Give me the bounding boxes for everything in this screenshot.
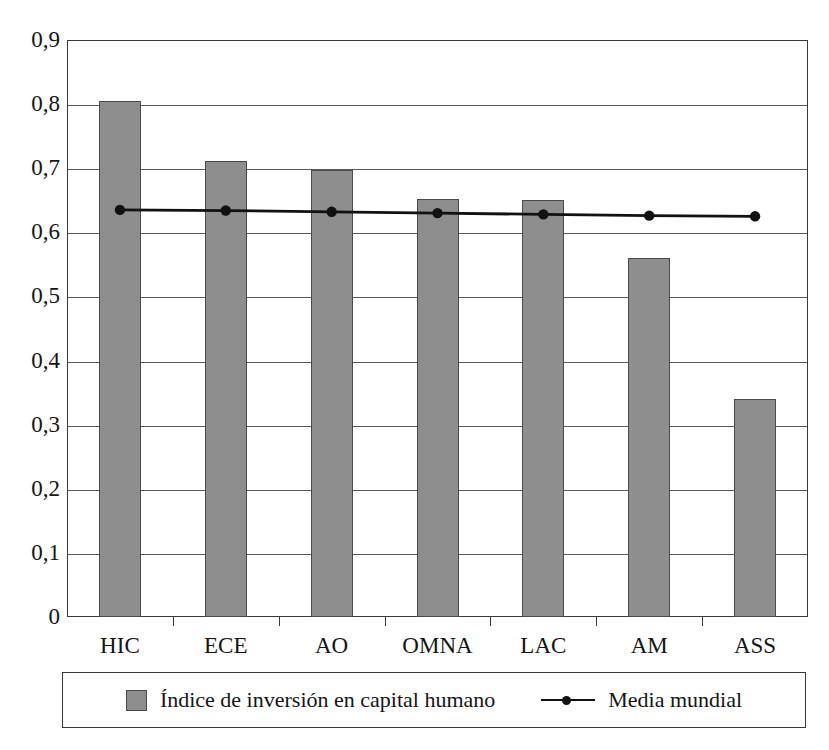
legend-entry-bar: Índice de inversión en capital humano xyxy=(126,689,495,711)
mean-line-marker xyxy=(326,207,336,217)
mean-line-marker xyxy=(750,211,760,221)
x-axis-label-omna: OMNA xyxy=(385,634,491,657)
legend: Índice de inversión en capital humano Me… xyxy=(62,672,806,728)
legend-entry-line: Media mundial xyxy=(541,689,742,711)
x-axis-label-lac: LAC xyxy=(490,634,596,657)
mean-line-marker xyxy=(644,210,654,220)
x-tick xyxy=(279,617,280,626)
x-axis-label-ao: AO xyxy=(279,634,385,657)
x-tick xyxy=(702,617,703,626)
legend-line-icon xyxy=(541,694,595,706)
mean-line-marker xyxy=(115,205,125,215)
legend-label-bar: Índice de inversión en capital humano xyxy=(160,689,495,711)
x-axis-label-am: AM xyxy=(596,634,702,657)
x-tick xyxy=(490,617,491,626)
x-axis-label-hic: HIC xyxy=(67,634,173,657)
mean-line-marker xyxy=(221,205,231,215)
legend-swatch-icon xyxy=(126,690,147,711)
legend-label-line: Media mundial xyxy=(608,689,742,711)
mean-line-marker xyxy=(432,208,442,218)
x-tick xyxy=(173,617,174,626)
x-tick xyxy=(385,617,386,626)
x-axis-label-ece: ECE xyxy=(173,634,279,657)
x-axis-label-ass: ASS xyxy=(702,634,808,657)
chart-figure: 0,90,80,70,60,50,40,30,20,10 HICECEAOOMN… xyxy=(0,0,829,750)
mean-line-marker xyxy=(538,209,548,219)
x-tick xyxy=(596,617,597,626)
